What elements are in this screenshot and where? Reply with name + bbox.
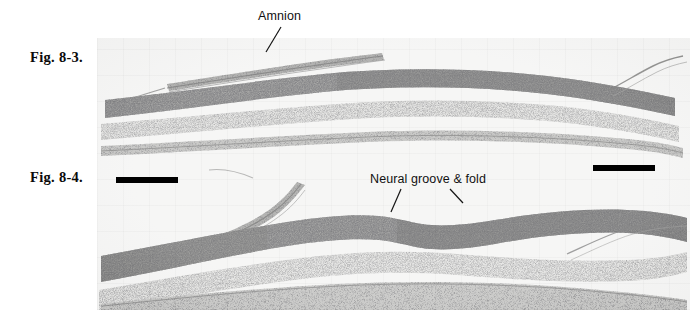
figure-label-8-4: Fig. 8-4. <box>30 169 83 186</box>
scale-bar-fig-8-4 <box>116 177 178 183</box>
figure-label-8-3: Fig. 8-3. <box>30 49 83 66</box>
scale-bar-fig-8-3 <box>593 165 655 171</box>
annotation-amnion: Amnion <box>258 9 301 23</box>
figure-plate: Fig. 8-3. Fig. 8-4. Amnion Neural groove… <box>0 0 695 327</box>
annotation-neural-groove-fold: Neural groove & fold <box>370 172 486 186</box>
